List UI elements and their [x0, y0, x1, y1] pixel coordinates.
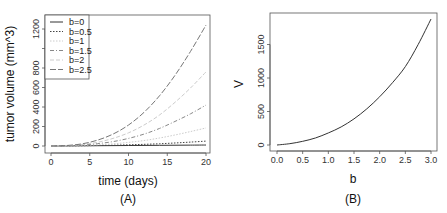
y-tick-label: 800: [31, 60, 41, 75]
series-line: [277, 19, 431, 145]
y-tick-label: 500: [256, 104, 266, 119]
x-tick-label: 0.5: [296, 155, 309, 165]
x-tick-label: 10: [123, 157, 133, 167]
x-axis-label-a: time (days): [98, 174, 157, 188]
legend-label: b=0: [69, 17, 84, 27]
chart-b: 0.00.51.01.52.02.53.0 050010001500 b V (…: [232, 13, 437, 206]
x-axis-b: 0.00.51.01.52.02.53.0: [271, 151, 438, 165]
legend-label: b=1: [69, 36, 84, 46]
x-tick-label: 0.0: [271, 155, 284, 165]
y-tick-label: 200: [31, 119, 41, 134]
x-tick-label: 3.0: [425, 155, 438, 165]
x-tick-label: 1.0: [322, 155, 335, 165]
legend-a: b=0b=0.5b=1b=1.5b=2b=2.5: [45, 15, 92, 79]
x-tick-label: 2.5: [399, 155, 412, 165]
figure: 05101520 02004006008001200 b=0b=0.5b=1b=…: [0, 0, 447, 213]
y-tick-label: 1200: [31, 19, 41, 39]
x-tick-label: 15: [162, 157, 172, 167]
y-tick-label: 0: [31, 143, 41, 148]
x-tick-label: 0: [48, 157, 53, 167]
y-axis-label-b: V: [232, 80, 246, 88]
x-tick-label: 1.5: [348, 155, 361, 165]
legend-label: b=0.5: [69, 27, 92, 37]
x-tick-label: 5: [87, 157, 92, 167]
series-line: [51, 72, 206, 146]
legend-label: b=1.5: [69, 46, 92, 56]
legend-label: b=2.5: [69, 65, 92, 75]
y-axis-label-a: tumor volume (mm^3): [3, 26, 17, 142]
series-line: [51, 128, 206, 146]
y-tick-label: 600: [31, 80, 41, 95]
legend-label: b=2: [69, 55, 84, 65]
x-tick-label: 20: [201, 157, 211, 167]
y-axis-a: 02004006008001200: [31, 19, 45, 149]
y-tick-label: 1000: [256, 68, 266, 88]
plot-frame-b: [270, 13, 437, 151]
panel-label-a: (A): [120, 192, 136, 206]
x-axis-a: 05101520: [48, 153, 211, 167]
y-tick-label: 0: [256, 142, 266, 147]
x-axis-label-b: b: [350, 172, 357, 186]
chart-a: 05101520 02004006008001200 b=0b=0.5b=1b=…: [3, 15, 211, 206]
y-tick-label: 400: [31, 99, 41, 114]
series-lines-b: [277, 19, 431, 145]
series-line: [51, 145, 206, 146]
panel-label-b: (B): [345, 192, 361, 206]
y-tick-label: 1500: [256, 34, 266, 54]
x-tick-label: 2.0: [373, 155, 386, 165]
y-axis-b: 050010001500: [256, 34, 270, 147]
